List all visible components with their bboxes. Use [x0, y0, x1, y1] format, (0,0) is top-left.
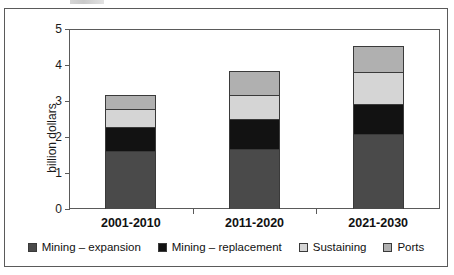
y-tick-mark: [65, 101, 70, 102]
legend-swatch-icon: [28, 243, 37, 252]
bar-2001-2010: [105, 95, 156, 209]
page-edge-artifact: [70, 0, 104, 4]
y-tick-label: 4: [55, 59, 62, 71]
legend-item: Mining – expansion: [28, 241, 141, 253]
legend-label: Sustaining: [313, 241, 367, 253]
bar-segment: [105, 127, 156, 151]
x-tick-label: 2011-2020: [225, 216, 284, 230]
bar-segment: [229, 119, 280, 149]
bar-2011-2020: [229, 71, 280, 209]
x-tick-label: 2001-2010: [101, 216, 161, 230]
y-tick-mark: [65, 29, 70, 30]
legend-swatch-icon: [158, 243, 167, 252]
bar-segment: [229, 95, 280, 119]
bar-2021-2030: [353, 46, 404, 209]
legend-item: Sustaining: [299, 241, 367, 253]
bar-segment: [353, 72, 404, 104]
chart-figure: 012345 2001-20102011-20202021-2030 billi…: [4, 8, 448, 267]
bar-segment: [105, 151, 156, 209]
y-tick-mark: [65, 137, 70, 138]
y-axis-title: billion dollars: [45, 103, 59, 172]
legend-swatch-icon: [383, 243, 392, 252]
bar-segment: [105, 109, 156, 127]
chart-legend: Mining – expansionMining – replacementSu…: [5, 241, 447, 253]
bar-segment: [353, 104, 404, 134]
y-tick-mark: [65, 209, 70, 210]
bar-segment: [353, 46, 404, 72]
y-tick-mark: [65, 173, 70, 174]
x-tick-label: 2021-2030: [348, 216, 408, 230]
legend-label: Ports: [397, 241, 424, 253]
y-tick-label: 5: [55, 23, 62, 35]
legend-item: Mining – replacement: [158, 241, 282, 253]
x-tick-mark: [316, 209, 317, 214]
legend-label: Mining – replacement: [172, 241, 282, 253]
x-tick-mark: [193, 209, 194, 214]
bar-segment: [229, 71, 280, 95]
plot-area: 012345 2001-20102011-20202021-2030: [69, 29, 440, 209]
legend-label: Mining – expansion: [42, 241, 141, 253]
legend-item: Ports: [383, 241, 424, 253]
y-tick-label: 0: [55, 203, 62, 215]
legend-swatch-icon: [299, 243, 308, 252]
bar-segment: [353, 134, 404, 209]
bar-segment: [229, 149, 280, 209]
y-tick-mark: [65, 65, 70, 66]
bar-segment: [105, 95, 156, 109]
